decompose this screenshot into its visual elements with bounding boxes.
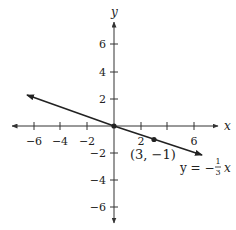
y-axis-label: y bbox=[110, 5, 118, 19]
equation-denominator: 3 bbox=[215, 168, 220, 177]
point-label: (3, −1) bbox=[130, 147, 176, 162]
equation-numerator: 1 bbox=[215, 157, 220, 166]
y-tick-label: 6 bbox=[99, 38, 106, 51]
coordinate-plane: −6 −4 −2 2 6 6 4 2 −2 −4 −6 x y (3, −1) … bbox=[0, 0, 236, 230]
point-3-neg1 bbox=[151, 137, 156, 142]
x-tick-label: −4 bbox=[52, 135, 68, 148]
x-tick-label: −6 bbox=[26, 135, 42, 148]
y-tick-label: −4 bbox=[90, 174, 106, 187]
y-tick-label: −2 bbox=[90, 147, 106, 160]
y-tick-label: 2 bbox=[99, 93, 106, 106]
equation-variable: x bbox=[224, 161, 231, 175]
y-tick-label: −6 bbox=[90, 201, 106, 214]
equation-lhs: y = − bbox=[179, 161, 215, 175]
origin-point bbox=[111, 123, 116, 128]
equation-label: y = − 1 3 x bbox=[179, 157, 231, 177]
y-tick-label: 4 bbox=[99, 66, 106, 79]
x-tick-label: 6 bbox=[191, 135, 198, 148]
x-axis-label: x bbox=[224, 119, 231, 133]
